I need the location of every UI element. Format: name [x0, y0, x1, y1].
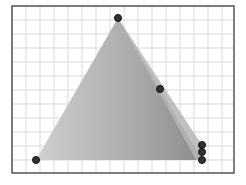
triangle-shape[interactable] — [36, 18, 202, 160]
bottom-left-point[interactable] — [33, 157, 40, 164]
edge-point[interactable] — [157, 86, 164, 93]
bottom-right-point-2[interactable] — [199, 149, 206, 156]
bottom-right-point-3[interactable] — [199, 157, 206, 164]
geometry-canvas[interactable] — [0, 0, 246, 185]
bottom-right-point-1[interactable] — [199, 142, 206, 149]
apex-point[interactable] — [115, 15, 122, 22]
